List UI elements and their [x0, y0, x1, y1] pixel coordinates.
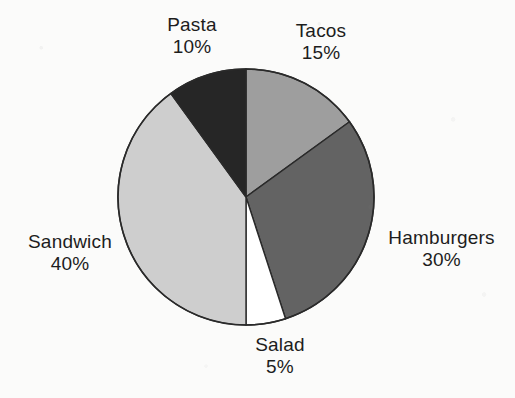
pie-label-pasta: Pasta 10% — [133, 14, 251, 58]
pie-label-tacos-name: Tacos — [262, 20, 380, 42]
pie-label-sandwich-name: Sandwich — [6, 231, 134, 253]
pie-label-tacos-percent: 15% — [262, 42, 380, 64]
chart-canvas: Pasta 10% Tacos 15% Hamburgers 30% Salad… — [0, 0, 515, 398]
pie-label-tacos: Tacos 15% — [262, 20, 380, 64]
pie-label-sandwich: Sandwich 40% — [6, 231, 134, 275]
pie-label-hamburgers: Hamburgers 30% — [368, 227, 515, 271]
pie-label-salad-name: Salad — [216, 334, 344, 356]
pie-slice-group — [118, 69, 374, 325]
pie-label-pasta-percent: 10% — [133, 36, 251, 58]
pie-label-salad-percent: 5% — [216, 356, 344, 378]
pie-label-pasta-name: Pasta — [133, 14, 251, 36]
pie-label-salad: Salad 5% — [216, 334, 344, 378]
pie-label-hamburgers-name: Hamburgers — [368, 227, 515, 249]
pie-label-hamburgers-percent: 30% — [368, 249, 515, 271]
pie-label-sandwich-percent: 40% — [6, 253, 134, 275]
